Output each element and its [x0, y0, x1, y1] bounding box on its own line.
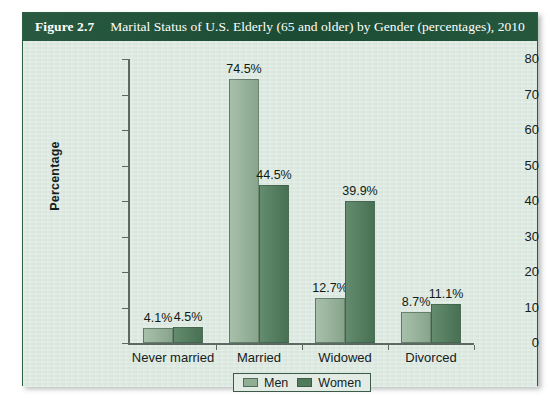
figure-caption: Marital Status of U.S. Elderly (65 and o… — [110, 19, 525, 35]
y-tick-label-30: 30 — [449, 229, 539, 244]
legend-label-men: Men — [264, 376, 288, 390]
bar-men-married — [229, 79, 259, 343]
bar-men-widowed — [315, 298, 345, 343]
figure-container: Figure 2.7 Marital Status of U.S. Elderl… — [22, 12, 538, 386]
bar-women-married — [259, 185, 289, 343]
bar-women-divorced — [431, 304, 461, 343]
x-label-divorced: Divorced — [388, 350, 474, 365]
x-separator-4 — [474, 345, 475, 350]
bar-value-men-married: 74.5% — [214, 62, 274, 76]
bar-women-never-married — [173, 327, 203, 343]
bar-value-women-married: 44.5% — [244, 168, 304, 182]
chart-legend: Men Women — [233, 373, 371, 392]
y-tick-label-40: 40 — [449, 193, 539, 208]
y-tick-0 — [122, 343, 128, 344]
bar-men-divorced — [401, 312, 431, 343]
y-tick-50 — [122, 166, 128, 167]
legend-label-women: Women — [318, 376, 361, 390]
y-tick-label-60: 60 — [449, 122, 539, 137]
y-axis-line — [128, 59, 130, 345]
legend-swatch-women-icon — [297, 378, 312, 387]
chart-panel: Percentage 01020304050607080 4.1%4.5%74.… — [23, 41, 537, 387]
bar-chart-plot: Percentage 01020304050607080 4.1%4.5%74.… — [23, 41, 539, 387]
figure-title-bar: Figure 2.7 Marital Status of U.S. Elderl… — [23, 13, 537, 41]
y-tick-label-50: 50 — [449, 158, 539, 173]
y-tick-10 — [122, 308, 128, 309]
y-tick-20 — [122, 272, 128, 273]
y-tick-40 — [122, 201, 128, 202]
legend-item-women: Women — [297, 376, 361, 390]
y-tick-label-20: 20 — [449, 264, 539, 279]
y-axis-title: Percentage — [48, 116, 62, 236]
x-label-widowed: Widowed — [302, 350, 388, 365]
y-tick-80 — [122, 59, 128, 60]
legend-swatch-men-icon — [243, 378, 258, 387]
x-axis-line — [128, 343, 474, 345]
bar-value-women-widowed: 39.9% — [330, 184, 390, 198]
bar-men-never-married — [143, 328, 173, 343]
y-tick-label-80: 80 — [449, 51, 539, 66]
x-label-never-married: Never married — [130, 350, 216, 365]
figure-number: Figure 2.7 — [35, 19, 94, 35]
y-tick-label-70: 70 — [449, 87, 539, 102]
bar-value-women-never-married: 4.5% — [158, 310, 218, 324]
y-tick-label-10: 10 — [449, 300, 539, 315]
y-tick-label-0: 0 — [449, 335, 539, 350]
legend-item-men: Men — [243, 376, 288, 390]
y-tick-70 — [122, 95, 128, 96]
bar-value-women-divorced: 11.1% — [416, 287, 476, 301]
x-label-married: Married — [216, 350, 302, 365]
y-tick-60 — [122, 130, 128, 131]
y-tick-30 — [122, 237, 128, 238]
bar-women-widowed — [345, 201, 375, 343]
